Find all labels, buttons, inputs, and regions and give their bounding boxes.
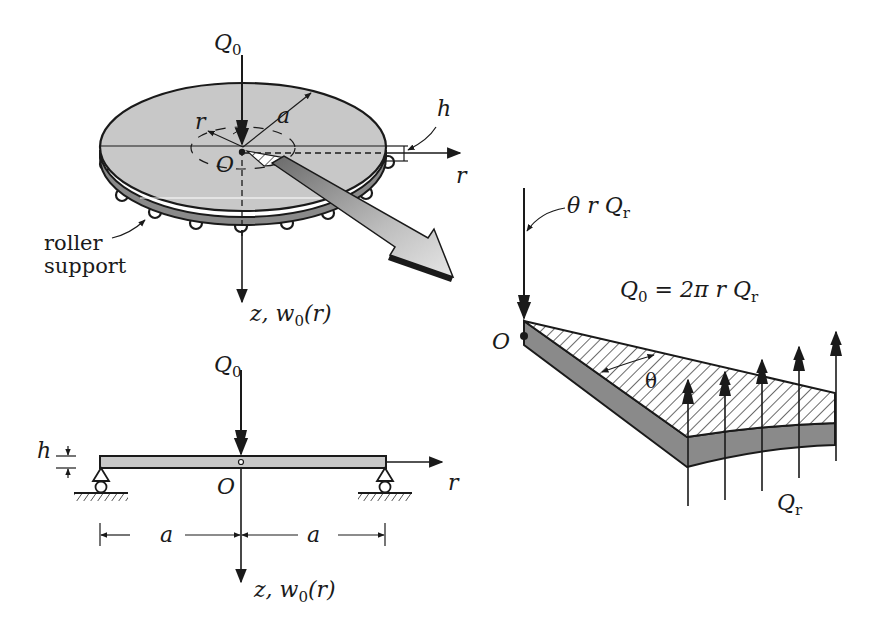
- right-pin-roller-support: [358, 468, 412, 501]
- origin-label-3: O: [492, 329, 510, 354]
- applied-load-label: θ r Qr: [567, 193, 631, 222]
- cross-section-panel: h a a Q0 O r z, w0(r): [37, 352, 460, 606]
- span-left-label: a: [160, 522, 173, 547]
- applied-load-leader: [527, 208, 565, 231]
- origin-label-2: O: [217, 474, 235, 499]
- edge-force-label: Qr: [777, 490, 803, 519]
- thickness-label: h: [437, 96, 451, 121]
- thickness-label-2: h: [37, 438, 51, 463]
- span-dimension: [100, 523, 385, 546]
- origin-point-3: [520, 332, 528, 340]
- thickness-marker-2: [56, 446, 76, 478]
- z-axis-label: z, w0(r): [249, 301, 332, 330]
- r-coordinate-label: r: [195, 109, 207, 134]
- radius-label: a: [277, 103, 290, 128]
- left-pin-roller-support: [74, 468, 128, 501]
- roller-leader: [112, 220, 145, 238]
- origin-point: [239, 149, 245, 155]
- roller-support-label-line2: support: [44, 254, 127, 278]
- origin-point-2: [239, 460, 244, 465]
- h-leader: [408, 127, 436, 150]
- q0-label: Q0: [214, 30, 242, 59]
- span-right-label: a: [307, 522, 320, 547]
- origin-label: O: [216, 152, 234, 177]
- r-axis-label-2: r: [448, 470, 460, 495]
- equilibrium-equation: Q0 = 2π r Qr: [620, 277, 759, 306]
- diagram-canvas: Q0 a r h r O z, w0(r) roller support: [0, 0, 878, 634]
- plate-3d-panel: Q0 a r h r O z, w0(r) roller support: [44, 30, 468, 330]
- z-axis-label-2: z, w0(r): [253, 577, 336, 606]
- roller-support-label-line1: roller: [44, 231, 104, 255]
- angle-label: θ: [645, 369, 657, 393]
- r-axis-label: r: [456, 163, 468, 188]
- sector-detail-panel: θ r Qr Q0 = 2π r Qr O θ Qr: [492, 188, 842, 519]
- q0-label-2: Q0: [214, 352, 242, 381]
